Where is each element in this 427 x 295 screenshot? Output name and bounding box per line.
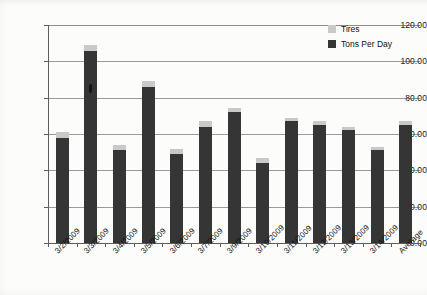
x-axis-tick-mark xyxy=(391,243,392,247)
legend-label-tires: Tires xyxy=(341,24,360,34)
bar-series-layer xyxy=(48,25,420,243)
x-axis-tick-mark xyxy=(220,243,221,247)
bar-segment-tons-per-day xyxy=(84,51,97,243)
bar-segment-tires xyxy=(56,132,69,137)
x-axis-tick-mark xyxy=(77,243,78,247)
bar-segment-tires xyxy=(285,118,298,122)
bar-segment-tires xyxy=(399,121,412,125)
bar-segment-tons-per-day xyxy=(399,125,412,243)
bar-segment-tires xyxy=(313,121,326,125)
bar-segment-tires xyxy=(142,81,155,86)
bar-segment-tons-per-day xyxy=(56,138,69,243)
bar-segment-tires xyxy=(84,45,97,51)
x-axis-tick-mark xyxy=(248,243,249,247)
bar-segment-tires xyxy=(256,158,269,163)
bar-segment-tons-per-day xyxy=(371,150,384,243)
legend-label-tons-per-day: Tons Per Day xyxy=(341,39,392,49)
bar-segment-tons-per-day xyxy=(313,125,326,243)
legend-item-tires: Tires xyxy=(328,22,392,35)
bar-segment-tons-per-day xyxy=(199,127,212,243)
bar-segment-tires xyxy=(113,145,126,150)
bar-segment-tons-per-day xyxy=(170,154,183,243)
bar-segment-tons-per-day xyxy=(285,121,298,243)
bar-segment-tons-per-day xyxy=(142,87,155,243)
x-axis-tick-mark xyxy=(48,243,49,247)
bar-segment-tires xyxy=(170,149,183,154)
bar-segment-tons-per-day xyxy=(342,130,355,243)
x-axis-tick-mark xyxy=(162,243,163,247)
bar-segment-tons-per-day xyxy=(228,112,241,243)
bar-segment-tires xyxy=(228,108,241,113)
bar-chart: 0.0020.0040.0060.0080.00100.00120.00 3/2… xyxy=(0,0,427,295)
legend-swatch-tires-icon xyxy=(328,25,336,33)
chart-legend: Tires Tons Per Day xyxy=(328,22,392,52)
x-axis-tick-mark xyxy=(420,243,421,247)
bar-segment-tons-per-day xyxy=(113,150,126,243)
x-axis-tick-mark xyxy=(191,243,192,247)
bar-segment-tires xyxy=(199,121,212,126)
bar-segment-tires xyxy=(342,127,355,131)
x-axis-tick-mark xyxy=(134,243,135,247)
x-axis-tick-mark xyxy=(306,243,307,247)
x-axis-tick-mark xyxy=(334,243,335,247)
x-axis-tick-mark xyxy=(105,243,106,247)
bar-segment-tires xyxy=(371,147,384,151)
x-axis-tick-mark xyxy=(277,243,278,247)
x-axis-tick-mark xyxy=(363,243,364,247)
bar-segment-tons-per-day xyxy=(256,163,269,243)
legend-swatch-tons-per-day-icon xyxy=(328,40,336,48)
legend-item-tons-per-day: Tons Per Day xyxy=(328,37,392,50)
